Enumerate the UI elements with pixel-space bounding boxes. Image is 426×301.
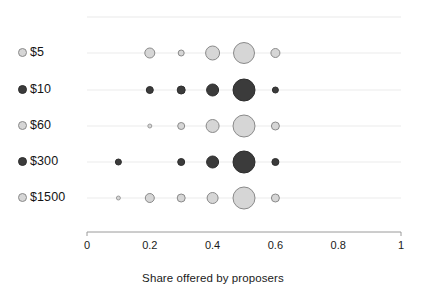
category-label-60: $60 — [18, 119, 51, 131]
category-marker-icon — [18, 48, 27, 57]
bubble — [178, 50, 184, 56]
x-tick-label: 0.8 — [331, 239, 346, 251]
bubble — [271, 49, 280, 58]
category-label-text: $10 — [30, 83, 51, 95]
bubble — [206, 46, 220, 60]
x-axis-line — [87, 232, 401, 236]
category-marker-icon — [18, 85, 27, 94]
bubble — [207, 193, 218, 204]
bubble — [272, 159, 279, 166]
category-label-text: $1500 — [30, 191, 65, 203]
x-tick-label: 1 — [398, 239, 404, 251]
bubble — [116, 196, 120, 200]
category-label-text: $60 — [30, 119, 51, 131]
bubble — [233, 115, 255, 137]
category-label-text: $5 — [30, 46, 44, 58]
bubble — [271, 122, 279, 130]
bubble — [177, 194, 185, 202]
category-label-300: $300 — [18, 155, 58, 167]
category-marker-icon — [18, 193, 27, 202]
bubble — [207, 156, 219, 168]
bubble — [146, 87, 153, 94]
x-tick-label: 0.6 — [268, 239, 283, 251]
bubble — [145, 194, 154, 203]
category-marker-icon — [18, 121, 27, 130]
bubble-chart: $5$10$60$300$1500 00.20.40.60.81 Share o… — [0, 0, 426, 301]
bubble — [234, 43, 255, 64]
bubble — [206, 120, 219, 133]
x-tick-label: 0.2 — [142, 239, 157, 251]
category-marker-icon — [18, 157, 27, 166]
bubble — [115, 159, 121, 165]
bubble — [148, 124, 152, 128]
category-label-5: $5 — [18, 46, 44, 58]
category-label-text: $300 — [30, 155, 58, 167]
x-axis-title: Share offered by proposers — [0, 272, 426, 284]
bubble — [272, 87, 278, 93]
plot-area — [0, 0, 426, 301]
bubble — [145, 48, 155, 58]
category-label-1500: $1500 — [18, 191, 65, 203]
bubble — [233, 151, 255, 173]
category-label-10: $10 — [18, 83, 51, 95]
bubble — [271, 194, 279, 202]
bubble — [178, 159, 185, 166]
x-tick-label: 0.4 — [205, 239, 220, 251]
bubble — [178, 123, 185, 130]
x-tick-label: 0 — [84, 239, 90, 251]
bubble — [233, 187, 255, 209]
bubble — [207, 84, 219, 96]
bubble — [177, 86, 185, 94]
bubble — [233, 79, 255, 101]
